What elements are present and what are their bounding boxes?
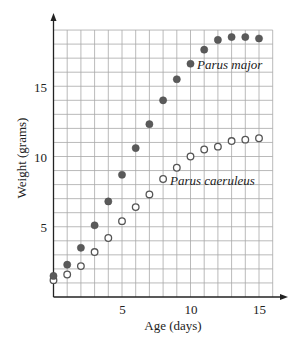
- x-tick-label: 10: [185, 302, 198, 317]
- data-point-parus-major: [50, 272, 57, 279]
- data-point-parus-major: [201, 46, 208, 53]
- data-point-parus-major: [160, 97, 167, 104]
- y-axis-arrow-icon: [51, 13, 57, 21]
- data-point-parus-major: [146, 121, 153, 128]
- data-point-parus-caeruleus: [119, 218, 126, 225]
- data-point-parus-caeruleus: [174, 164, 181, 171]
- data-point-parus-caeruleus: [187, 153, 194, 160]
- data-point-parus-major: [228, 33, 235, 40]
- data-point-parus-major: [132, 144, 139, 151]
- data-point-parus-caeruleus: [228, 138, 235, 145]
- y-tick-label: 5: [41, 220, 48, 235]
- data-point-parus-major: [105, 198, 112, 205]
- x-axis-arrow-icon: [280, 294, 288, 300]
- y-tick-label: 15: [34, 80, 47, 95]
- data-point-parus-caeruleus: [132, 204, 139, 211]
- y-axis-label: Weight (grams): [14, 118, 29, 199]
- series-label-parus-major: Parus major: [196, 57, 263, 72]
- data-point-parus-caeruleus: [201, 146, 208, 153]
- series-label-parus-caeruleus: Parus caeruleus: [169, 173, 255, 188]
- data-point-parus-caeruleus: [78, 263, 85, 270]
- data-point-parus-major: [187, 60, 194, 67]
- data-point-parus-major: [255, 35, 262, 42]
- x-tick-label: 15: [253, 302, 266, 317]
- data-point-parus-major: [173, 76, 180, 83]
- data-point-parus-caeruleus: [160, 176, 167, 183]
- scatter-chart: 5 10 15 5 10 15 Age (days) Weight (grams…: [0, 0, 305, 353]
- data-point-parus-caeruleus: [91, 249, 98, 256]
- data-point-parus-major: [242, 33, 249, 40]
- data-point-parus-major: [118, 171, 125, 178]
- y-tick-label: 10: [34, 150, 47, 165]
- data-point-parus-caeruleus: [105, 235, 112, 242]
- data-point-parus-caeruleus: [242, 136, 249, 143]
- data-point-parus-caeruleus: [146, 191, 153, 198]
- data-point-parus-major: [77, 244, 84, 251]
- x-axis-label: Age (days): [144, 318, 201, 333]
- x-tick-label: 5: [119, 302, 126, 317]
- data-point-parus-caeruleus: [215, 143, 222, 150]
- data-point-parus-caeruleus: [64, 271, 71, 278]
- data-point-parus-major: [214, 36, 221, 43]
- data-point-parus-major: [91, 222, 98, 229]
- data-point-parus-caeruleus: [256, 135, 263, 142]
- data-point-parus-major: [64, 261, 71, 268]
